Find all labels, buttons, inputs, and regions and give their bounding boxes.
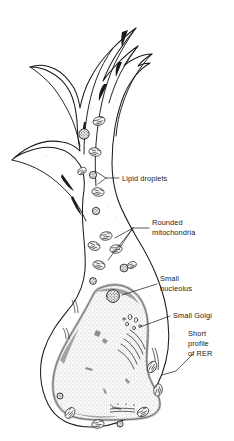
label-short-profile-of-rer-line-1: Short (188, 329, 206, 338)
label-short-profile-of-rer-line-2: profile (188, 339, 209, 348)
label-rounded-mitochondria-line-2: mitochondria (152, 228, 196, 237)
label-rounded-mitochondria: Rounded mitochondria (152, 218, 196, 237)
label-small-nucleolus-line-1: Small (160, 274, 179, 283)
nucleolus (107, 290, 120, 303)
label-small-golgi: Small Golgi (173, 311, 212, 320)
cell-diagram: Lipid droplets Rounded mitochondria Smal… (0, 0, 234, 441)
label-lipid-droplets: Lipid droplets (122, 174, 168, 183)
label-lipid-droplets-line-1: Lipid droplets (122, 174, 168, 183)
label-rounded-mitochondria-line-1: Rounded (152, 218, 183, 227)
label-small-golgi-line-1: Small Golgi (173, 311, 212, 320)
label-small-nucleolus: Small nucleolus (160, 274, 192, 293)
label-small-nucleolus-line-2: nucleolus (160, 284, 192, 293)
nucleus (53, 285, 160, 420)
label-short-profile-of-rer: Short profile of RER (188, 329, 212, 358)
label-short-profile-of-rer-line-3: of RER (188, 349, 212, 358)
figure-canvas: Lipid droplets Rounded mitochondria Smal… (0, 0, 234, 441)
